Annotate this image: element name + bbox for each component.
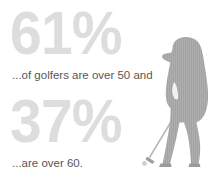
stat-percent-value-2: 37%	[0, 90, 138, 152]
golf-ball	[142, 161, 147, 166]
golfer-body	[162, 37, 208, 164]
golfer-shoe-left	[159, 164, 172, 168]
golfer-silhouette-icon	[138, 30, 220, 170]
stat-percent-value-1: 61%	[0, 2, 138, 64]
stat-block-first: 61% ...of golfers are over 50 and	[0, 2, 150, 82]
golfer-shoe-right	[189, 164, 201, 168]
stat-block-second: 37% ...are over 60.	[0, 90, 150, 170]
infographic-panel: 61% ...of golfers are over 50 and 37% ..…	[0, 0, 220, 187]
